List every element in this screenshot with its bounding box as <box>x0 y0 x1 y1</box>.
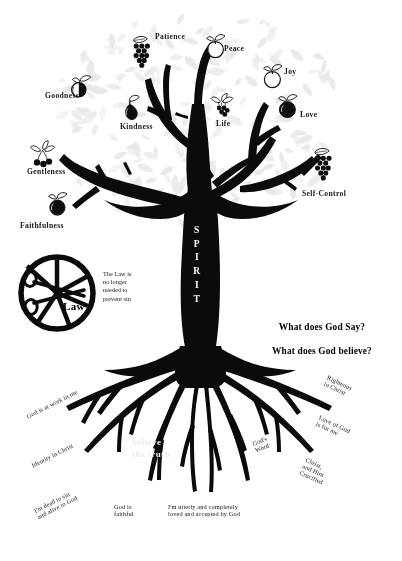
fruit-label-faithfulness: Faithfulness <box>20 222 64 231</box>
diagram-canvas: believe the truth S P I R I T Patience P… <box>0 0 402 561</box>
law-badge-icon <box>21 257 93 329</box>
fruit-label-goodness: Goodness <box>45 92 79 101</box>
fruit-icon-apple-peace <box>207 35 225 58</box>
spirit-letter-r: R <box>193 267 200 277</box>
spirit-letter-t: T <box>194 295 201 305</box>
law-badge-word: Law <box>63 300 85 312</box>
spirit-letter-i1: I <box>195 253 199 263</box>
fruit-label-peace: Peace <box>224 45 244 54</box>
fruit-label-self-control: Self-Control <box>302 190 346 199</box>
fruit-label-life: Life <box>216 120 230 129</box>
trunk-spirit-text: S P I R I T <box>190 224 204 306</box>
fruit-icon-apple-love <box>279 95 297 118</box>
fruit-label-joy: Joy <box>284 68 296 77</box>
fruit-icon-pear-kindness <box>126 95 140 119</box>
fruit-label-love: Love <box>300 111 317 120</box>
fruit-label-patience: Patience <box>155 33 185 42</box>
fruit-label-gentleness: Gentleness <box>27 168 66 177</box>
question-block: What does God Say? What does God believe… <box>249 309 395 369</box>
fruit-icon-apple-joy <box>264 65 282 88</box>
fruit-icon-apple-faithfulness <box>49 193 67 216</box>
fruit-label-kindness: Kindness <box>120 123 153 132</box>
root-label-god-is-faithful: God is faithful <box>114 503 134 517</box>
root-label-loved-and-accepted: I'm utterly and completely loved and acc… <box>168 503 240 517</box>
law-badge-note: The Law is no longer needed to prevent s… <box>103 270 131 303</box>
spirit-letter-p: P <box>194 240 200 250</box>
fruit-icon-berries-life <box>211 94 233 117</box>
question-line-1: What does God Say? <box>249 321 395 333</box>
spirit-letter-s: S <box>194 226 200 236</box>
spirit-letter-i2: I <box>195 281 199 291</box>
fruit-icon-cherries-gentleness <box>31 141 55 167</box>
question-line-2: What does God believe? <box>249 345 395 357</box>
